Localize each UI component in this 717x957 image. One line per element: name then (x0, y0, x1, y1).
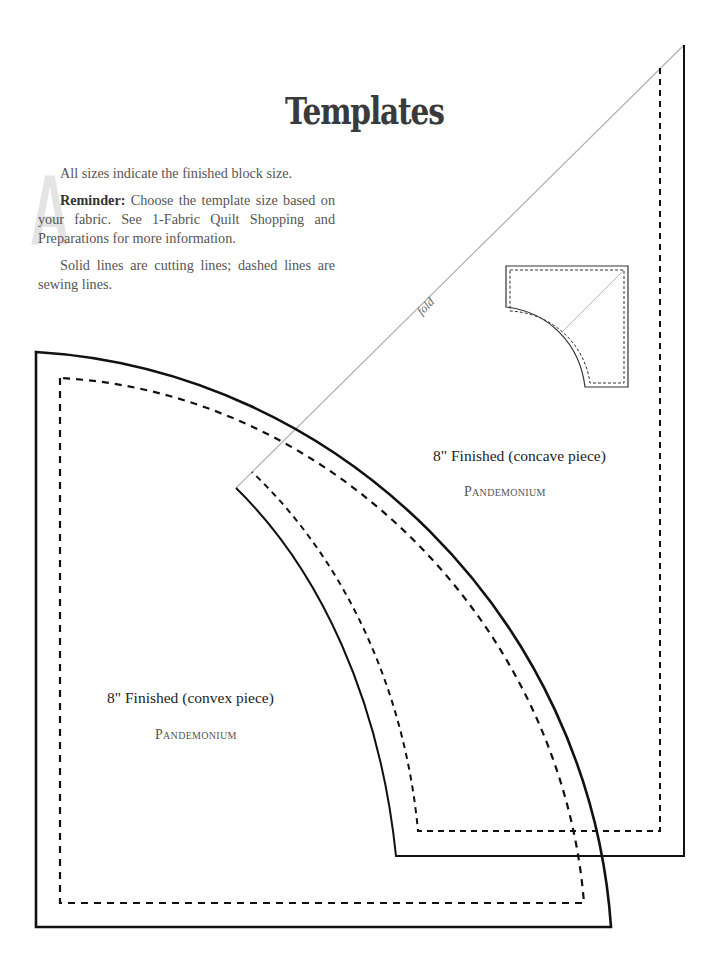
reminder-label: Reminder: (60, 192, 125, 208)
template-page: Templates A All sizes indicate the finis… (0, 0, 717, 957)
convex-piece-name: Pandemonium (155, 727, 237, 743)
sizes-note: All sizes indicate the finished block si… (38, 164, 335, 183)
intro-text: All sizes indicate the finished block si… (38, 164, 335, 302)
thumbnail-diagram (506, 266, 628, 387)
template-drawings (0, 0, 717, 957)
reminder-paragraph: Reminder: Choose the template size based… (38, 191, 335, 248)
concave-piece-label: 8" Finished (concave piece) (433, 447, 606, 465)
convex-piece-label: 8" Finished (convex piece) (107, 689, 274, 707)
concave-piece-name: Pandemonium (464, 484, 546, 500)
lines-note: Solid lines are cutting lines; dashed li… (38, 256, 335, 294)
page-title: Templates (285, 88, 444, 133)
convex-piece-template (36, 352, 611, 927)
convex-cut-line (36, 352, 611, 927)
